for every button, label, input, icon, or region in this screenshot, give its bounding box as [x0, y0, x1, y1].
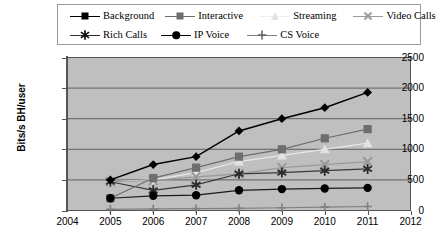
x-tick-label: 2011	[348, 216, 388, 227]
y-tick-label: 1500	[378, 113, 424, 124]
x-tick-mark	[110, 211, 111, 215]
y-tick-label: 1000	[378, 143, 424, 154]
y-tick-label: 0	[378, 205, 424, 216]
y-tick-mark	[62, 211, 67, 212]
x-tick-label: 2007	[176, 216, 216, 227]
x-tick-label: 2009	[262, 216, 302, 227]
y-tick-label: 2000	[378, 82, 424, 93]
x-tick-label: 2005	[90, 216, 130, 227]
x-tick-label: 2006	[133, 216, 173, 227]
y-tick-label: 500	[378, 174, 424, 185]
y-tick-label: 2500	[378, 52, 424, 63]
y-tick-mark	[62, 119, 67, 120]
x-tick-label: 2004	[48, 216, 88, 227]
x-tick-mark	[411, 211, 412, 215]
x-tick-mark	[153, 211, 154, 215]
series-ip-voice	[106, 184, 372, 203]
x-tick-label: 2010	[305, 216, 345, 227]
x-tick-label: 2008	[219, 216, 259, 227]
y-tick-mark	[62, 180, 67, 181]
x-tick-mark	[239, 211, 240, 215]
x-tick-mark	[368, 211, 369, 215]
x-tick-mark	[282, 211, 283, 215]
y-tick-mark	[62, 88, 67, 89]
y-tick-mark	[62, 58, 67, 59]
x-tick-mark	[325, 211, 326, 215]
y-tick-mark	[62, 149, 67, 150]
x-tick-mark	[196, 211, 197, 215]
x-tick-label: 2012	[391, 216, 431, 227]
